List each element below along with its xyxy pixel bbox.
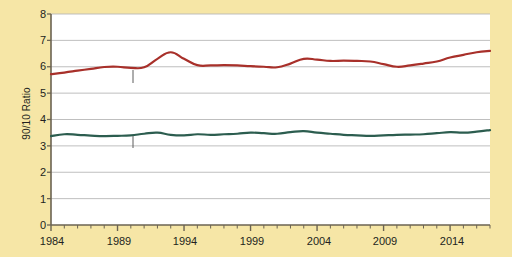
chart-figure: 90/10 Ratio 0 1 2 3 4 5 6 7 8 1984 1989 … (0, 0, 512, 257)
chart-plot-svg (0, 0, 512, 257)
